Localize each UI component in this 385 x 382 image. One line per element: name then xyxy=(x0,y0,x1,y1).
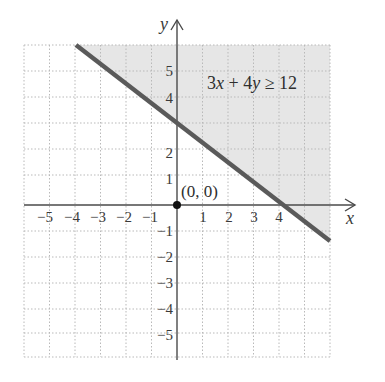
inequality-graph: y x −5 −4 −3 −2 −1 1 2 3 4 5 4 2 1 −1 −2… xyxy=(0,0,385,382)
ineq-coef-3: 3 xyxy=(207,73,216,93)
x-tick: −5 xyxy=(37,209,53,225)
x-tick: −4 xyxy=(64,209,80,225)
y-tick: −5 xyxy=(157,327,173,343)
origin-point-label: (0, 0) xyxy=(181,182,218,201)
origin-test-point xyxy=(173,201,181,209)
ineq-geq-12: ≥ 12 xyxy=(260,73,297,93)
x-axis-label: x xyxy=(345,208,354,228)
ineq-var-x: x xyxy=(215,73,224,93)
y-tick: 1 xyxy=(166,171,174,187)
y-tick: 4 xyxy=(166,90,174,106)
y-tick: −1 xyxy=(157,223,173,239)
x-tick: −1 xyxy=(142,209,158,225)
inequality-label: 3x + 4y ≥ 12 xyxy=(207,73,297,93)
x-tick: 1 xyxy=(199,209,207,225)
x-tick: −2 xyxy=(116,209,132,225)
y-tick: 2 xyxy=(166,145,174,161)
y-axis-label: y xyxy=(158,14,168,34)
x-tick: −3 xyxy=(90,209,106,225)
x-tick: 3 xyxy=(250,209,258,225)
y-tick: 5 xyxy=(166,63,174,79)
ineq-plus-4: + 4 xyxy=(224,73,252,93)
x-tick: 2 xyxy=(225,209,233,225)
ineq-var-y: y xyxy=(250,73,260,93)
y-tick: −2 xyxy=(157,249,173,265)
y-tick: −4 xyxy=(157,301,173,317)
x-tick: 4 xyxy=(275,209,283,225)
y-tick: −3 xyxy=(157,275,173,291)
